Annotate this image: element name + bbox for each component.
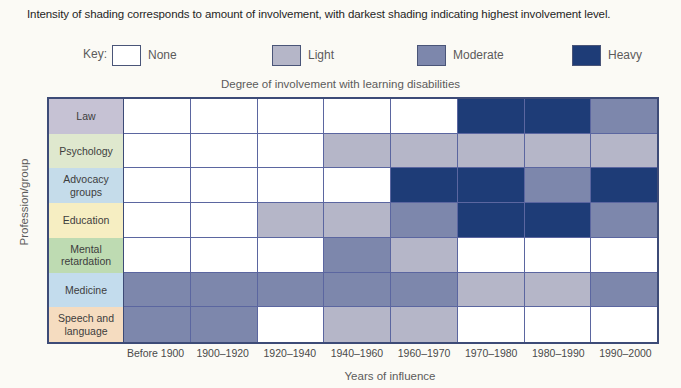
heatmap-cell <box>458 307 525 342</box>
heatmap-cell <box>458 168 525 203</box>
heatmap-grid <box>124 99 657 342</box>
heatmap-cell <box>391 99 458 134</box>
heatmap-cell <box>324 134 391 169</box>
heatmap-cell <box>591 203 657 238</box>
heatmap-cell <box>124 238 191 273</box>
heatmap-cell <box>391 307 458 342</box>
legend-none-label: None <box>148 48 177 62</box>
heatmap-cell <box>191 134 258 169</box>
heatmap-row <box>124 134 657 169</box>
heatmap-cell <box>391 238 458 273</box>
heatmap-cell <box>525 99 592 134</box>
heatmap-cell <box>124 99 191 134</box>
legend-heavy-swatch <box>572 45 601 66</box>
x-tick-label: Before 1900 <box>122 347 189 359</box>
heatmap-cell <box>324 307 391 342</box>
heatmap-cell <box>324 168 391 203</box>
heatmap-cell <box>525 168 592 203</box>
x-tick-label: 1980–1990 <box>525 347 592 359</box>
heatmap-cell <box>391 203 458 238</box>
heatmap-cell <box>525 203 592 238</box>
heatmap-cell <box>525 238 592 273</box>
chart-title: Degree of involvement with learning disa… <box>0 78 681 90</box>
heatmap-cell <box>591 99 657 134</box>
heatmap-cell <box>324 238 391 273</box>
row-label: Psychology <box>49 134 123 169</box>
legend-light-label: Light <box>308 48 334 62</box>
legend-moderate-swatch <box>417 45 446 66</box>
heatmap-cell <box>191 273 258 308</box>
heatmap-cell <box>591 134 657 169</box>
heatmap-cell <box>458 273 525 308</box>
heatmap-cell <box>391 134 458 169</box>
row-label: Law <box>49 99 123 134</box>
legend-moderate: Moderate <box>417 44 504 66</box>
heatmap-cell <box>258 134 325 169</box>
heatmap-cell <box>124 168 191 203</box>
row-label: Speech and language <box>49 307 123 342</box>
heatmap-cell <box>258 238 325 273</box>
heatmap-cell <box>124 134 191 169</box>
chart-caption: Intensity of shading corresponds to amou… <box>27 6 627 24</box>
y-axis-title: Profession/group <box>18 142 30 262</box>
heatmap-cell <box>191 307 258 342</box>
heatmap-cell <box>458 238 525 273</box>
x-tick-label: 1940–1960 <box>323 347 390 359</box>
heatmap-cell <box>324 273 391 308</box>
x-tick-label: 1970–1980 <box>458 347 525 359</box>
heatmap-cell <box>391 273 458 308</box>
heatmap-cell <box>191 99 258 134</box>
heatmap-row <box>124 203 657 238</box>
legend-key-label: Key: <box>83 47 107 61</box>
legend-moderate-label: Moderate <box>453 48 504 62</box>
legend-none: None <box>112 44 177 66</box>
heatmap-cell <box>591 238 657 273</box>
heatmap-row <box>124 168 657 203</box>
heatmap-cell <box>525 134 592 169</box>
heatmap-cell <box>458 203 525 238</box>
heatmap-plot: LawPsychologyAdvocacy groupsEducationMen… <box>47 97 659 344</box>
heatmap-cell <box>258 168 325 203</box>
heatmap-cell <box>191 203 258 238</box>
heatmap-cell <box>324 99 391 134</box>
legend-heavy-label: Heavy <box>608 48 642 62</box>
legend-none-swatch <box>112 45 141 66</box>
heatmap-cell <box>324 203 391 238</box>
legend-light: Light <box>272 44 334 66</box>
x-tick-label: 1920–1940 <box>256 347 323 359</box>
row-label: Advocacy groups <box>49 168 123 203</box>
heatmap-cell <box>458 134 525 169</box>
x-tick-label: 1900–1920 <box>189 347 256 359</box>
heatmap-cell <box>391 168 458 203</box>
heatmap-cell <box>591 307 657 342</box>
legend-heavy: Heavy <box>572 44 642 66</box>
heatmap-row <box>124 238 657 273</box>
heatmap-cell <box>258 99 325 134</box>
heatmap-cell <box>258 203 325 238</box>
legend: Key: NoneLightModerateHeavy <box>27 44 657 68</box>
row-label: Education <box>49 203 123 238</box>
row-label-column: LawPsychologyAdvocacy groupsEducationMen… <box>49 99 124 342</box>
x-tick-label: 1960–1970 <box>391 347 458 359</box>
heatmap-cell <box>525 273 592 308</box>
heatmap-cell <box>525 307 592 342</box>
heatmap-cell <box>124 203 191 238</box>
row-label: Mental retardation <box>49 238 123 273</box>
row-label: Medicine <box>49 273 123 308</box>
heatmap-row <box>124 99 657 134</box>
x-axis-title: Years of influence <box>120 370 660 382</box>
heatmap-cell <box>258 273 325 308</box>
heatmap-row <box>124 307 657 342</box>
heatmap-cell <box>258 307 325 342</box>
x-tick-label: 1990–2000 <box>592 347 659 359</box>
heatmap-cell <box>458 99 525 134</box>
heatmap-cell <box>191 238 258 273</box>
heatmap-row <box>124 273 657 308</box>
legend-light-swatch <box>272 45 301 66</box>
heatmap-cell <box>124 307 191 342</box>
x-axis-tick-labels: Before 19001900–19201920–19401940–196019… <box>122 347 659 359</box>
heatmap-cell <box>124 273 191 308</box>
heatmap-cell <box>591 273 657 308</box>
heatmap-cell <box>591 168 657 203</box>
heatmap-cell <box>191 168 258 203</box>
